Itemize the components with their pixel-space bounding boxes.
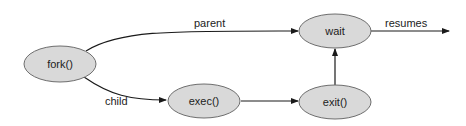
exec-label: exec() [189, 95, 220, 107]
parent-label: parent [194, 17, 225, 29]
child-label: child [105, 95, 128, 107]
node-wait: wait [299, 14, 371, 48]
wait-label: wait [324, 25, 345, 37]
node-fork: fork() [24, 46, 96, 82]
exit-label: exit() [323, 96, 347, 108]
node-exit: exit() [299, 85, 371, 119]
parent-edge [86, 31, 298, 51]
resumes-label: resumes [385, 17, 428, 29]
node-exec: exec() [168, 84, 240, 118]
fork-label: fork() [47, 58, 73, 70]
process-diagram: parent child resumes fork() wait exec() … [0, 0, 466, 126]
